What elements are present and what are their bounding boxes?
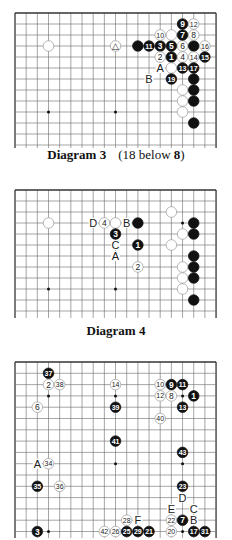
white-stone [177, 262, 188, 273]
svg-text:17: 17 [190, 528, 198, 535]
go-board-diagram-4: DBCA4312 [0, 180, 232, 320]
white-stone: 12 [155, 391, 166, 402]
black-stone [188, 118, 199, 129]
hoshi-point [47, 288, 50, 291]
board-letter-marker: F [135, 514, 142, 526]
svg-text:20: 20 [167, 528, 175, 535]
svg-text:13: 13 [179, 404, 187, 411]
black-stone: 9 [166, 379, 177, 390]
white-stone: 6 [177, 41, 188, 52]
black-stone: 43 [177, 447, 188, 458]
white-stone: 10 [155, 30, 166, 41]
black-stone: 7 [177, 515, 188, 526]
svg-text:2: 2 [158, 52, 163, 62]
white-stone [166, 63, 177, 74]
go-board-diagram-5: ADECFB3723861439109111281134041433435362… [0, 355, 232, 540]
white-stone [177, 96, 188, 107]
white-stone: 26 [110, 526, 121, 537]
svg-text:2: 2 [136, 262, 141, 272]
svg-text:12: 12 [190, 21, 198, 28]
svg-text:14: 14 [190, 54, 198, 61]
white-stone: 4 [99, 218, 110, 229]
white-stone: 42 [99, 526, 110, 537]
svg-text:39: 39 [112, 404, 120, 411]
svg-text:7: 7 [180, 515, 185, 525]
black-stone: 35 [32, 481, 43, 492]
white-stone: 14 [188, 52, 199, 63]
black-stone: 19 [166, 74, 177, 85]
white-stone: 28 [121, 515, 132, 526]
white-stone: 6 [32, 402, 43, 413]
black-stone: 11 [144, 41, 155, 52]
caption-diagram-4: Diagram 4 [0, 323, 232, 339]
white-stone [43, 218, 54, 229]
svg-text:6: 6 [35, 402, 40, 412]
black-stone: 41 [110, 436, 121, 447]
black-stone: 9 [177, 19, 188, 30]
svg-text:9: 9 [169, 380, 174, 390]
svg-text:10: 10 [156, 381, 164, 388]
svg-text:34: 34 [45, 460, 53, 467]
svg-text:43: 43 [179, 449, 187, 456]
black-stone: 17 [188, 63, 199, 74]
white-stone [166, 30, 177, 41]
black-stone: 5 [166, 41, 177, 52]
hoshi-point [47, 111, 50, 114]
white-stone [43, 41, 54, 52]
svg-text:21: 21 [145, 528, 153, 535]
svg-text:4: 4 [180, 52, 185, 62]
board-letter-marker: B [190, 514, 197, 526]
hoshi-point [114, 111, 117, 114]
svg-text:3: 3 [35, 527, 40, 537]
hoshi-point [47, 530, 50, 533]
caption-note-prefix: (18 below [118, 147, 174, 162]
svg-text:9: 9 [180, 19, 185, 29]
black-stone: 21 [144, 526, 155, 537]
black-stone: 37 [43, 368, 54, 379]
svg-text:22: 22 [167, 517, 175, 524]
hoshi-point [181, 530, 184, 533]
hoshi-point [114, 288, 117, 291]
black-stone [188, 295, 199, 306]
board-letter-marker: A [34, 458, 42, 470]
svg-text:40: 40 [156, 415, 164, 422]
white-stone: 10 [155, 379, 166, 390]
svg-text:8: 8 [169, 391, 174, 401]
board-letter-marker: C [190, 503, 198, 515]
board-letter-marker: A [157, 62, 165, 74]
board-letter-marker: D [89, 217, 97, 229]
black-stone [188, 262, 199, 273]
svg-text:2: 2 [46, 380, 51, 390]
black-stone: 31 [200, 526, 211, 537]
go-board-diagram-3: AB△113561691210782141415131719 [0, 0, 232, 150]
svg-text:26: 26 [112, 528, 120, 535]
svg-text:38: 38 [56, 381, 64, 388]
black-stone: 25 [121, 526, 132, 537]
svg-text:1: 1 [169, 52, 174, 62]
hoshi-point [114, 462, 117, 465]
svg-text:31: 31 [201, 528, 209, 535]
black-stone: 3 [32, 526, 43, 537]
svg-text:25: 25 [123, 528, 131, 535]
black-stone: 17 [188, 526, 199, 537]
board-letter-marker: A [112, 250, 120, 262]
black-stone: 1 [166, 52, 177, 63]
black-stone [188, 74, 199, 85]
svg-text:37: 37 [45, 370, 53, 377]
svg-text:15: 15 [201, 54, 209, 61]
svg-text:16: 16 [201, 43, 209, 50]
white-stone: 16 [200, 41, 211, 52]
black-stone: 39 [110, 402, 121, 413]
hoshi-point [47, 394, 50, 397]
white-stone [177, 273, 188, 284]
white-stone: 2 [155, 52, 166, 63]
white-stone: △ [110, 41, 121, 52]
svg-text:13: 13 [179, 65, 187, 72]
black-stone [133, 218, 144, 229]
black-stone: 13 [177, 63, 188, 74]
white-stone: 12 [188, 19, 199, 30]
white-stone: 20 [166, 526, 177, 537]
svg-text:41: 41 [112, 438, 120, 445]
black-stone: 7 [177, 30, 188, 41]
board-letter-marker: B [145, 73, 152, 85]
